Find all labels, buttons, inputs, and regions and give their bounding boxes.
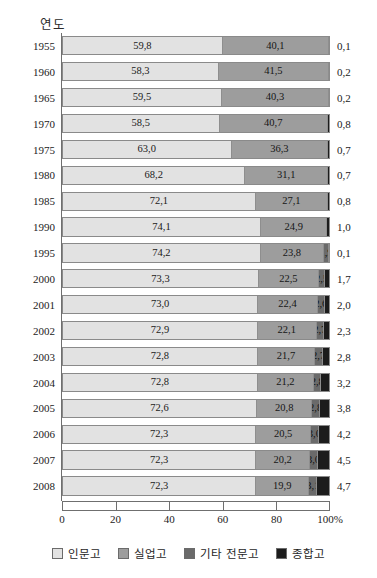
bar-segment	[326, 218, 329, 235]
outer-value-label: 0,8	[337, 195, 351, 207]
legend-label: 실업고	[134, 545, 167, 561]
bar-segment	[327, 167, 329, 184]
stacked-bar: 68,231,1	[62, 166, 330, 185]
bar-segment: 22,1	[257, 322, 316, 339]
x-axis-tick-label: 40	[164, 513, 175, 525]
stacked-bar: 72,320,23,0	[62, 450, 330, 469]
bar-segment: 22,4	[257, 296, 317, 313]
stacked-bar: 72,620,82,8	[62, 399, 330, 418]
bar-segment: 63,0	[63, 141, 231, 158]
bar-segment: 2,8	[311, 400, 318, 417]
stacked-bar: 72,319,93,1	[62, 476, 330, 495]
bar-segment	[324, 270, 329, 287]
bar-segment-label: 3,0	[309, 455, 317, 466]
bar-segment-label: 22,5	[279, 274, 297, 285]
stacked-bar: 74,223,81,9	[62, 243, 330, 262]
bar-segment-label: 40,7	[264, 118, 282, 129]
bar-segment	[318, 426, 329, 443]
stacked-bar-chart: 연도 195559,840,10,1196058,341,50,2196559,…	[0, 0, 377, 578]
bar-segment-label: 63,0	[138, 144, 156, 155]
bar-segment: 2,6	[317, 296, 324, 313]
x-axis-tick	[223, 502, 224, 510]
bar-segment: 20,8	[256, 400, 311, 417]
x-axis-tick-label: 80	[271, 513, 282, 525]
outer-value-label: 0,8	[337, 118, 351, 130]
outer-value-label: 0,2	[337, 66, 351, 78]
bar-segment: 74,2	[63, 244, 260, 261]
bar-segment-label: 20,5	[274, 429, 292, 440]
chart-row: 200272,922,12,72,3	[62, 318, 330, 344]
bar-segment-label: 59,5	[133, 92, 151, 103]
legend-swatch-icon	[52, 548, 63, 559]
stacked-bar: 59,540,3	[62, 88, 330, 107]
year-tick-label: 2001	[33, 299, 55, 311]
outer-value-label: 2,3	[337, 325, 351, 337]
bar-segment	[324, 296, 329, 313]
year-tick-label: 1960	[33, 66, 55, 78]
legend-swatch-icon	[118, 548, 129, 559]
bar-segment-label: 40,3	[266, 92, 284, 103]
bar-segment-label: 36,3	[270, 144, 288, 155]
stacked-bar: 72,821,22,8	[62, 373, 330, 392]
bar-segment-label: 41,5	[264, 66, 282, 77]
chart-row: 200772,320,23,04,5	[62, 447, 330, 473]
bar-segment-label: 68,2	[145, 170, 163, 181]
bar-segment-label: 72,3	[150, 481, 168, 492]
bar-segment-label: 3,1	[308, 481, 316, 492]
year-tick-label: 2008	[33, 480, 55, 492]
bar-segment	[319, 400, 329, 417]
stacked-bar: 72,821,72,7	[62, 347, 330, 366]
year-tick-label: 1965	[33, 92, 55, 104]
chart-row: 198572,127,10,8	[62, 188, 330, 214]
legend-label: 기타 전문고	[200, 545, 259, 561]
stacked-bar: 73,322,52,5	[62, 269, 330, 288]
year-tick-label: 1975	[33, 144, 55, 156]
bar-segment: 23,8	[260, 244, 323, 261]
bar-segment: 31,1	[244, 167, 327, 184]
chart-row: 196058,341,50,2	[62, 59, 330, 85]
bar-segment-label: 74,1	[152, 222, 170, 233]
year-tick-label: 1970	[33, 118, 55, 130]
year-tick-label: 1955	[33, 40, 55, 52]
legend-label: 종합고	[292, 545, 325, 561]
bar-segment: 2,8	[313, 374, 320, 391]
bar-segment-label: 72,1	[150, 196, 168, 207]
stacked-bar: 73,022,42,6	[62, 295, 330, 314]
bar-segment: 3,0	[309, 451, 317, 468]
bar-segment: 41,5	[218, 63, 328, 80]
bar-segment-label: 21,2	[276, 377, 294, 388]
year-tick-label: 2007	[33, 454, 55, 466]
bar-segment: 27,1	[255, 193, 327, 210]
stacked-bar: 72,922,12,7	[62, 321, 330, 340]
outer-value-label: 4,5	[337, 454, 351, 466]
bar-segment: 72,9	[63, 322, 257, 339]
x-axis-tick	[329, 502, 330, 510]
bar-segment: 20,5	[255, 426, 310, 443]
bar-segment: 72,8	[63, 348, 257, 365]
chart-row: 200672,320,53,04,2	[62, 421, 330, 447]
stacked-bar: 59,840,1	[62, 36, 330, 55]
bar-segment-label: 2,7	[314, 351, 321, 362]
bar-segment-label: 24,9	[285, 222, 303, 233]
bar-segment-label: 31,1	[277, 170, 295, 181]
bar-segment: 74,1	[63, 218, 260, 235]
bar-segment: 72,3	[63, 477, 255, 494]
stacked-bar: 74,124,9	[62, 217, 330, 236]
y-axis-caption: 연도	[40, 14, 65, 33]
bar-segment-label: 20,2	[273, 455, 291, 466]
bar-segment: 20,2	[255, 451, 309, 468]
x-axis-tick-label: 0	[59, 513, 65, 525]
x-axis-tick-label: 60	[217, 513, 228, 525]
bar-segment-label: 72,9	[151, 325, 169, 336]
stacked-bar: 58,540,7	[62, 114, 330, 133]
bar-segment-label: 20,8	[275, 403, 293, 414]
chart-row: 199074,124,91,0	[62, 214, 330, 240]
bar-segment	[328, 89, 329, 106]
year-tick-label: 1985	[33, 195, 55, 207]
bar-segment: 22,5	[258, 270, 318, 287]
legend-item: 실업고	[118, 545, 167, 561]
bar-segment: 19,9	[255, 477, 308, 494]
chart-row: 199574,223,81,90,1	[62, 240, 330, 266]
bar-segment: 2,7	[314, 348, 321, 365]
bar-segment: 21,7	[257, 348, 315, 365]
